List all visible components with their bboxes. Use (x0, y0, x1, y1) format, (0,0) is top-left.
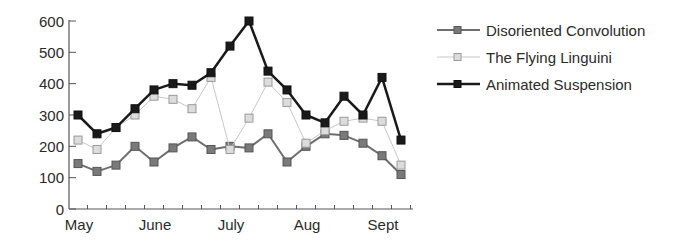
data-point-marker (169, 80, 177, 88)
data-point-marker (93, 167, 101, 175)
data-point-marker (169, 95, 177, 103)
data-point-marker (150, 86, 158, 94)
legend-marker-icon (454, 27, 461, 34)
data-point-marker (340, 131, 348, 139)
x-month-label: May (65, 216, 94, 233)
legend: Disoriented ConvolutionThe Flying Lingui… (437, 22, 645, 93)
data-point-marker (283, 86, 291, 94)
legend-item: Disoriented Convolution (437, 22, 645, 39)
y-tick-label: 400 (39, 75, 64, 92)
data-point-marker (359, 111, 367, 119)
data-point-marker (93, 145, 101, 153)
series-disoriented-convolution (74, 130, 405, 179)
data-point-marker (93, 130, 101, 138)
data-point-marker (74, 160, 82, 168)
data-point-marker (226, 145, 234, 153)
x-month-label: Sept (368, 216, 400, 233)
line-chart: 0100200300400500600 MayJuneJulyAugSept D… (0, 0, 684, 251)
data-point-marker (188, 133, 196, 141)
data-point-marker (169, 144, 177, 152)
data-point-marker (245, 114, 253, 122)
legend-label: Animated Suspension (486, 76, 632, 93)
legend-marker-icon (454, 81, 461, 88)
data-point-marker (378, 73, 386, 81)
data-point-marker (226, 42, 234, 50)
data-point-marker (264, 78, 272, 86)
legend-item: Animated Suspension (437, 76, 632, 93)
data-point-marker (340, 117, 348, 125)
data-point-marker (302, 139, 310, 147)
data-point-marker (131, 105, 139, 113)
legend-label: Disoriented Convolution (486, 22, 645, 39)
data-point-marker (74, 111, 82, 119)
data-point-marker (359, 139, 367, 147)
legend-item: The Flying Linguini (437, 49, 612, 66)
series-line (78, 77, 401, 165)
data-point-marker (131, 142, 139, 150)
data-point-marker (378, 117, 386, 125)
y-tick-label: 100 (39, 169, 64, 186)
data-point-marker (302, 111, 310, 119)
data-point-marker (283, 158, 291, 166)
data-point-marker (74, 136, 82, 144)
x-month-label: June (139, 216, 172, 233)
y-tick-label: 300 (39, 107, 64, 124)
data-point-marker (112, 161, 120, 169)
data-point-marker (397, 161, 405, 169)
data-point-marker (188, 81, 196, 89)
series-layer (74, 17, 405, 179)
data-point-marker (150, 158, 158, 166)
data-point-marker (378, 152, 386, 160)
y-axis: 0100200300400500600 (39, 13, 76, 218)
data-point-marker (245, 144, 253, 152)
legend-label: The Flying Linguini (486, 49, 612, 66)
data-point-marker (207, 69, 215, 77)
data-point-marker (245, 17, 253, 25)
series-animated-suspension (74, 17, 405, 144)
data-point-marker (397, 171, 405, 179)
x-month-label: July (218, 216, 245, 233)
data-point-marker (264, 130, 272, 138)
data-point-marker (321, 127, 329, 135)
y-tick-label: 600 (39, 13, 64, 30)
data-point-marker (321, 119, 329, 127)
data-point-marker (207, 145, 215, 153)
data-point-marker (264, 67, 272, 75)
y-tick-label: 200 (39, 138, 64, 155)
series-line (78, 21, 401, 140)
legend-marker-icon (454, 54, 461, 61)
y-tick-label: 500 (39, 44, 64, 61)
data-point-marker (283, 98, 291, 106)
data-point-marker (112, 124, 120, 132)
data-point-marker (397, 136, 405, 144)
series-line (78, 134, 401, 175)
data-point-marker (340, 92, 348, 100)
x-axis: MayJuneJulyAugSept (65, 205, 413, 233)
data-point-marker (188, 105, 196, 113)
x-month-label: Aug (294, 216, 321, 233)
y-tick-label: 0 (56, 201, 64, 218)
